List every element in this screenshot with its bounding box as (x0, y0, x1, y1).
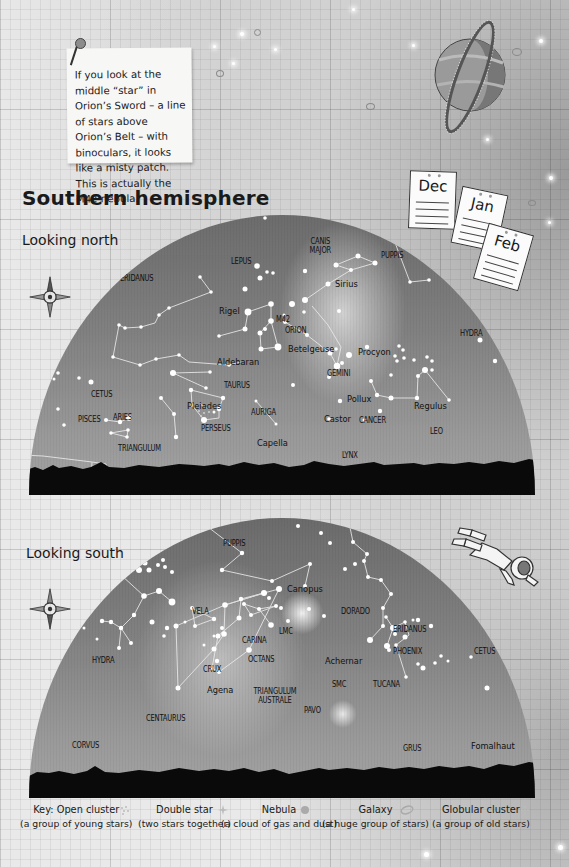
label-dorado: DORADO (341, 606, 370, 616)
background-star (549, 176, 553, 180)
background-star (213, 45, 216, 48)
label-lmc: LMC (279, 626, 293, 636)
label-achernar: Achernar (325, 655, 362, 666)
label-puppis: PUPPIS (223, 538, 245, 548)
label-canopus: Canopus (287, 583, 323, 594)
label-leo: LEO (430, 426, 443, 436)
label-crux: CRUX (203, 664, 221, 674)
label-perseus: PERSEUS (201, 423, 230, 433)
label-phoenix: PHOENIX (393, 646, 422, 656)
label-procyon: Procyon (358, 346, 391, 357)
label-betelgeuse: Betelgeuse (288, 343, 334, 354)
label-lynx: LYNX (342, 450, 358, 460)
key-item-desc: (a group of old stars) (432, 817, 530, 831)
label-vela: VELA (192, 606, 209, 616)
label-m42: M42 (276, 314, 290, 324)
label-carina: CARINA (242, 635, 267, 645)
label-centaurus: CENTAURUS (146, 713, 185, 723)
label-canis-major: CANIS MAJOR (308, 237, 333, 255)
background-star (424, 852, 429, 857)
background-galaxy (528, 200, 536, 206)
label-eridanus: ERIDANUS (120, 273, 153, 283)
label-cetus: CETUS (91, 389, 112, 399)
label-eridanus: ERIDANUS (393, 624, 426, 634)
key-item-desc: (two stars together) (138, 817, 231, 831)
label-aries: ARIES (113, 412, 132, 422)
label-sirius: Sirius (335, 278, 358, 289)
globular-cluster-icon (520, 805, 530, 815)
label-gemini: GEMINI (327, 368, 350, 378)
background-star (539, 39, 543, 43)
background-star (412, 44, 415, 47)
background-galaxy (216, 70, 224, 77)
label-pisces: PISCES (78, 414, 100, 424)
background-star (558, 845, 563, 850)
label-fomalhaut: Fomalhaut (471, 740, 515, 751)
label-octans: OCTANS (248, 654, 274, 664)
label-hydra: HYDRA (460, 328, 482, 338)
label-tucana: TUCANA (373, 679, 400, 689)
page-title: Southern hemisphere (22, 186, 270, 210)
label-capella: Capella (257, 437, 288, 448)
key-item-name: Nebula (221, 803, 337, 817)
key-open-cluster: Key: Open cluster (a group of young star… (20, 803, 132, 831)
calendar-month: Dec (418, 177, 448, 196)
label-aldebaran: Aldebaran (217, 356, 259, 367)
label-triangulum: TRIANGULUM (118, 443, 161, 453)
note-text: If you look at the middle “star” in Orio… (75, 69, 186, 205)
label-pleiades: Pleiades (187, 400, 221, 411)
north-star-chart (29, 215, 535, 495)
label-triangulum-australe: TRIANGULUM AUSTRALE (252, 687, 298, 705)
label-corvus: CORVUS (72, 740, 99, 750)
label-auriga: AURIGA (251, 407, 276, 417)
key-nebula: Nebula (a cloud of gas and dust) (221, 803, 337, 831)
nebula-icon (300, 805, 310, 815)
background-star (352, 8, 355, 11)
key-globular-cluster: Globular cluster (a group of old stars) (432, 803, 530, 831)
label-hydra: HYDRA (92, 655, 114, 665)
south-sky-dome: PUPPIS Canopus VELA LMC DORADO CARINA ER… (29, 518, 535, 798)
label-regulus: Regulus (414, 400, 447, 411)
page-background: If you look at the middle “star” in Orio… (0, 0, 569, 867)
label-taurus: TAURUS (224, 380, 250, 390)
background-star (548, 221, 551, 224)
label-smc: SMC (332, 679, 346, 689)
key-item-desc: (a huge group of stars) (322, 817, 429, 831)
label-puppis: PUPPIS (381, 250, 403, 260)
label-pollux: Pollux (347, 393, 371, 404)
key-item-desc: (a group of young stars) (20, 817, 132, 831)
label-cetus: CETUS (474, 646, 495, 656)
background-star (240, 32, 244, 36)
key-item-name: Globular cluster (432, 803, 530, 817)
pin-icon (75, 38, 86, 49)
calendar-month: Jan (469, 194, 495, 216)
ringed-planet-illustration (425, 15, 520, 145)
north-sky-dome: ERIDANUS LEPUS CANIS MAJOR PUPPIS Sirius… (29, 215, 535, 495)
galaxy-icon (400, 805, 414, 815)
background-galaxy (254, 29, 261, 36)
key-prefix: Key: (33, 804, 53, 815)
label-agena: Agena (207, 684, 233, 695)
background-galaxy (366, 103, 375, 110)
label-pavo: PAVO (304, 705, 321, 715)
open-cluster-icon (120, 805, 130, 815)
label-castor: Castor (324, 413, 351, 424)
info-note-card: If you look at the middle “star” in Orio… (67, 47, 193, 163)
label-grus: GRUS (403, 743, 421, 753)
label-rigel: Rigel (219, 305, 240, 316)
label-orion: ORION (285, 325, 306, 335)
background-star (232, 62, 235, 65)
label-lepus: LEPUS (231, 256, 251, 266)
key-item-name: Open cluster (57, 804, 120, 815)
background-star (274, 48, 277, 51)
label-cancer: CANCER (359, 415, 386, 425)
key-item-desc: (a cloud of gas and dust) (221, 817, 337, 831)
